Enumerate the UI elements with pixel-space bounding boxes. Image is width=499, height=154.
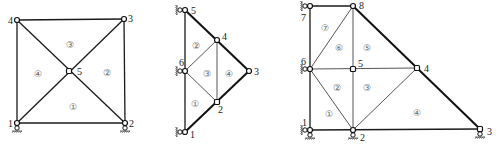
element-label: ① xyxy=(325,109,333,119)
pin-support-icon xyxy=(348,133,358,140)
node-label: 1 xyxy=(302,117,307,128)
node-label: 6 xyxy=(301,56,306,67)
node-label: 5 xyxy=(191,5,196,16)
node-1 xyxy=(15,121,20,126)
node-label: 8 xyxy=(359,0,364,11)
node-4 xyxy=(15,18,20,23)
element-label: ⑤ xyxy=(363,43,371,53)
truss-figure-b: 1 2 3 4 5 6 ① ② ③ ④ xyxy=(176,5,260,140)
node-2 xyxy=(123,121,128,126)
members xyxy=(310,6,480,130)
node-label: 1 xyxy=(8,118,13,129)
element-label: ③ xyxy=(363,83,371,93)
node-1 xyxy=(183,130,188,135)
element-label: ① xyxy=(69,102,77,112)
node-1 xyxy=(308,128,313,133)
node-6 xyxy=(183,69,188,74)
roller-support-icon xyxy=(301,1,308,11)
pin-support-icon xyxy=(12,126,22,133)
node-label: 4 xyxy=(8,15,13,26)
node-label: 3 xyxy=(254,66,259,77)
roller-support-icon xyxy=(176,5,183,15)
truss-figure-c: 1 2 3 4 5 6 7 8 ① ② ③ ④ ⑤ ⑥ ⑦ xyxy=(301,0,493,143)
node-label: 2 xyxy=(129,118,134,129)
node-label: 4 xyxy=(424,63,429,74)
members xyxy=(185,10,249,132)
node-8 xyxy=(351,4,356,9)
node-6 xyxy=(308,67,313,72)
node-3 xyxy=(122,17,127,22)
node-5 xyxy=(351,67,356,72)
node-label: 4 xyxy=(222,31,227,42)
element-label: ④ xyxy=(413,108,421,118)
truss-diagrams: 1 2 3 4 5 ① ② ③ ④ 1 2 3 4 5 6 ① xyxy=(0,0,499,154)
element-label: ④ xyxy=(34,69,42,79)
element-label: ④ xyxy=(225,69,233,79)
node-label: 6 xyxy=(179,57,184,68)
node-3 xyxy=(247,69,252,74)
element-label: ⑦ xyxy=(321,23,329,33)
node-4 xyxy=(215,38,220,43)
node-label: 3 xyxy=(128,13,133,24)
pin-support-icon xyxy=(475,132,485,139)
node-2 xyxy=(351,128,356,133)
element-label: ⑥ xyxy=(335,43,343,53)
node-label: 5 xyxy=(77,66,82,77)
element-label: ② xyxy=(192,41,200,51)
node-label: 2 xyxy=(360,132,365,143)
truss-figure-a: 1 2 3 4 5 ① ② ③ ④ xyxy=(8,13,134,133)
node-5 xyxy=(67,69,72,74)
pin-support-icon xyxy=(305,133,315,140)
node-4 xyxy=(415,66,420,71)
element-label: ② xyxy=(333,83,341,93)
node-label: 2 xyxy=(218,104,223,115)
node-3 xyxy=(478,127,483,132)
node-label: 1 xyxy=(190,129,195,140)
element-label: ③ xyxy=(203,69,211,79)
element-label: ① xyxy=(191,99,199,109)
node-7 xyxy=(308,4,313,9)
node-5 xyxy=(183,8,188,13)
node-label: 5 xyxy=(358,58,363,69)
element-label: ③ xyxy=(66,40,74,50)
element-label: ② xyxy=(103,68,111,78)
roller-support-icon xyxy=(176,127,183,137)
node-label: 7 xyxy=(301,12,306,23)
node-label: 3 xyxy=(487,126,492,137)
